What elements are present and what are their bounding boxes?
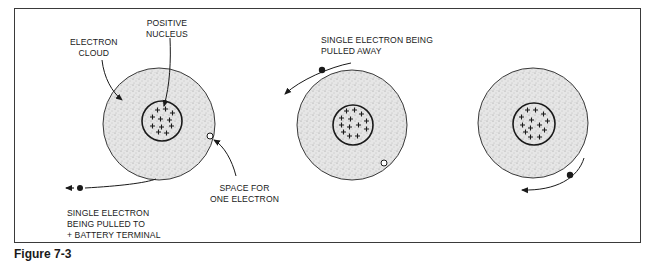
atom-2 bbox=[285, 63, 407, 180]
space-for-electron-label: SPACE FOR ONE ELECTRON bbox=[210, 183, 279, 205]
atom-3 bbox=[478, 68, 588, 190]
electron-cloud-label: ELECTRON CLOUD bbox=[70, 37, 118, 59]
space-leader bbox=[214, 140, 236, 176]
positive-nucleus-label: POSITIVE NUCLEUS bbox=[146, 18, 188, 40]
pulled-away-label: SINGLE ELECTRON BEING PULLED AWAY bbox=[321, 35, 433, 57]
nucleus bbox=[513, 103, 555, 145]
electron-hole bbox=[381, 160, 387, 166]
atom-1 bbox=[66, 38, 236, 191]
pulled-to-terminal-label: SINGLE ELECTRON BEING PULLED TO + BATTER… bbox=[67, 208, 161, 241]
figure-caption: Figure 7-3 bbox=[14, 247, 71, 261]
electron-trail bbox=[85, 179, 156, 188]
electron-hole bbox=[207, 133, 213, 139]
nucleus bbox=[142, 101, 182, 141]
free-electron bbox=[77, 185, 83, 191]
